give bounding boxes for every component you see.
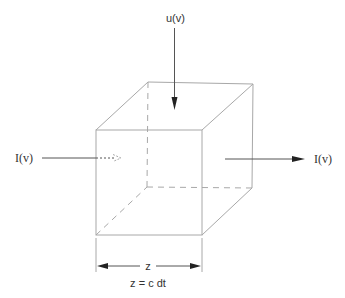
front-face (96, 130, 202, 235)
back-right-vertical-edge (252, 84, 253, 188)
arrow-left-icon (97, 263, 108, 269)
bottom-right-depth-edge (202, 188, 252, 235)
equation-label: z = c dt (130, 277, 166, 289)
top-back-edge (148, 82, 253, 84)
incident-label: u(v) (166, 12, 185, 24)
arrow-right-icon (190, 263, 201, 269)
back-left-vertical-edge (147, 82, 148, 187)
incoming-label: I(v) (15, 151, 33, 165)
arrow-right-open-icon (113, 155, 121, 162)
bottom-left-depth-edge (96, 187, 147, 235)
top-left-depth-edge (96, 82, 148, 130)
dimension-label: z (145, 260, 151, 272)
cube-diagram: u(v) I(v) I(v) z z = c dt (0, 0, 345, 298)
back-bottom-edge (147, 187, 252, 188)
arrow-right-icon (292, 156, 305, 162)
top-right-depth-edge (202, 84, 253, 130)
incident-arrow (172, 28, 178, 110)
arrow-down-icon (172, 97, 178, 110)
outgoing-label: I(v) (314, 152, 332, 166)
outgoing-arrow (225, 156, 305, 162)
incoming-arrow (42, 155, 121, 162)
